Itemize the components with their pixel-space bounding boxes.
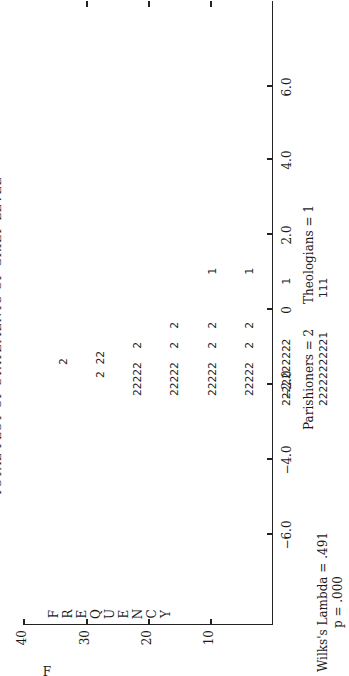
y-label-letter: Y xyxy=(159,607,173,621)
y-axis-label: FREQUENCY xyxy=(47,607,173,621)
x-tick-label: 4.0 xyxy=(280,140,294,180)
histogram-row: 22222 2 xyxy=(132,202,144,486)
x-tick-label: 6.0 xyxy=(280,67,294,107)
histogram-row: 22222 2 2 1 xyxy=(244,202,256,486)
y-tick-label: 30 xyxy=(78,630,92,654)
y-tick-label: 20 xyxy=(140,630,154,654)
y-label-letter: U xyxy=(103,607,117,621)
y-label-letter: Q xyxy=(89,607,103,621)
x-tick-6 xyxy=(267,86,273,88)
legend-theologians: Theologians = 1 xyxy=(302,205,316,304)
y-label-letter: N xyxy=(131,607,145,621)
frame-tick xyxy=(86,1,88,7)
legend-parishioners: Parishioners = 2 xyxy=(302,329,316,430)
y-label-letter: E xyxy=(117,607,131,621)
p-value: p = .000 xyxy=(331,532,346,672)
frame-tick xyxy=(210,1,212,7)
y-tick-10 xyxy=(210,619,212,625)
x-tick-neg6 xyxy=(267,534,273,536)
x-tick-label: −6.0 xyxy=(280,515,294,555)
y-tick-label: 40 xyxy=(15,630,29,654)
histogram-row: 22222 2 2 xyxy=(169,202,181,486)
y-label-letter: R xyxy=(61,607,75,621)
histogram-row: 2222222222 1 xyxy=(281,202,293,486)
stats-block: Wilks's Lambda = .491 p = .000 xyxy=(316,532,346,672)
y-tick-40 xyxy=(23,619,25,625)
y-label-letter: E xyxy=(75,607,89,621)
wilks-lambda: Wilks's Lambda = .491 xyxy=(316,532,331,672)
x-tick-4 xyxy=(267,159,273,161)
y-tick-label: 10 xyxy=(202,630,216,654)
y-label-letter: F xyxy=(47,607,61,621)
frame-tick xyxy=(148,1,150,7)
histogram-row: 22222 2 2 1 xyxy=(207,202,219,486)
chart-title: TOTAL PLOT OF STATEMENTS OF GRIEF LEVEL xyxy=(0,177,4,496)
histogram-row: 2 xyxy=(58,202,70,486)
y-label-letter: F xyxy=(43,665,51,676)
y-label-letter: C xyxy=(145,607,159,621)
histogram-row: 22222222221 111 xyxy=(318,202,330,486)
histogram-row: 2 22 xyxy=(95,202,107,486)
rotated-figure: TOTAL PLOT OF STATEMENTS OF GRIEF LEVEL … xyxy=(0,0,349,676)
